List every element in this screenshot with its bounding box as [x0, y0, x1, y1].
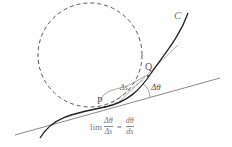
rhs-numerator: dθ — [126, 117, 134, 125]
angle-label: Δθ — [151, 83, 161, 92]
point-p-label: P — [97, 96, 103, 106]
curve-label: C — [174, 10, 181, 21]
lhs-denominator: Δs — [104, 128, 112, 136]
angle-arc — [143, 84, 150, 97]
arc-length-label: Δs — [120, 84, 128, 92]
lhs-fraction: Δθ Δs — [104, 117, 113, 136]
lim-operator: lim — [90, 122, 102, 132]
equals-sign: = — [117, 122, 122, 132]
tangent-line-q — [118, 45, 178, 103]
point-q-label: Q — [145, 62, 152, 72]
point-p-marker — [104, 106, 106, 108]
curvature-formula: lim Δθ Δs = dθ ds — [90, 117, 134, 136]
rhs-denominator: ds — [126, 128, 133, 136]
lhs-numerator: Δθ — [104, 117, 113, 125]
rhs-fraction: dθ ds — [126, 117, 134, 136]
point-q-marker — [147, 75, 149, 77]
